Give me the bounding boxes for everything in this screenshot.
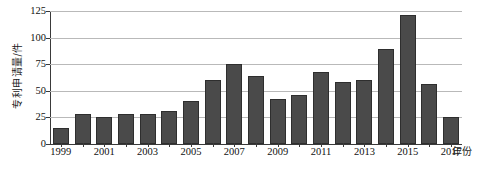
bar-series bbox=[50, 11, 462, 145]
x-tick-mark bbox=[213, 143, 214, 147]
bar bbox=[53, 128, 69, 144]
x-tick-mark bbox=[429, 143, 430, 147]
bar bbox=[140, 114, 156, 144]
y-tick-label: 75 bbox=[36, 59, 47, 70]
x-tick-label: 1999 bbox=[50, 147, 71, 158]
bar bbox=[313, 72, 329, 144]
x-tick-label: 2009 bbox=[267, 147, 288, 158]
bar bbox=[443, 117, 459, 144]
bar bbox=[421, 84, 437, 144]
y-axis-tick-labels: 0255075100125 bbox=[20, 11, 46, 145]
bar-chart-figure: 专利申请量/件 0255075100125 199920012003200520… bbox=[0, 0, 482, 190]
x-tick-label: 2011 bbox=[311, 147, 332, 158]
x-tick-mark bbox=[343, 143, 344, 147]
x-tick-mark bbox=[256, 143, 257, 147]
bar bbox=[226, 64, 242, 144]
bar bbox=[118, 114, 134, 144]
x-tick-mark bbox=[126, 143, 127, 147]
bar bbox=[270, 99, 286, 144]
bar bbox=[335, 82, 351, 144]
x-tick-mark bbox=[83, 143, 84, 147]
x-tick-label: 2003 bbox=[137, 147, 158, 158]
bar bbox=[248, 76, 264, 144]
bar bbox=[356, 80, 372, 144]
plot-area bbox=[50, 11, 462, 145]
bar bbox=[183, 101, 199, 144]
x-tick-label: 2007 bbox=[224, 147, 245, 158]
bar bbox=[291, 95, 307, 144]
y-tick-label: 125 bbox=[30, 6, 46, 17]
x-tick-mark bbox=[299, 143, 300, 147]
x-tick-label: 2015 bbox=[397, 147, 418, 158]
bar bbox=[378, 49, 394, 144]
y-tick-label: 100 bbox=[30, 32, 46, 43]
x-tick-mark bbox=[386, 143, 387, 147]
x-axis-tick-labels: 1999200120032005200720092011201320152017 bbox=[50, 147, 462, 163]
x-tick-label: 2001 bbox=[94, 147, 115, 158]
bar bbox=[400, 15, 416, 144]
bar bbox=[205, 80, 221, 144]
bar bbox=[96, 117, 112, 144]
y-tick-label: 25 bbox=[36, 112, 47, 123]
x-tick-label: 2005 bbox=[180, 147, 201, 158]
bar bbox=[75, 114, 91, 144]
x-axis-title: 年份 bbox=[452, 147, 472, 157]
bar bbox=[161, 111, 177, 144]
x-tick-mark bbox=[169, 143, 170, 147]
x-tick-label: 2013 bbox=[354, 147, 375, 158]
y-tick-label: 50 bbox=[36, 86, 47, 97]
